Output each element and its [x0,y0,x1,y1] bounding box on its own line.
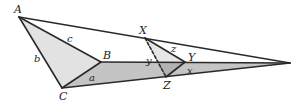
side-label-x: x [187,65,193,76]
vertex-label-a: A [13,3,22,16]
side-label-y: y [145,55,152,66]
side-label-z: z [170,43,177,54]
side-label-c: c [67,33,73,44]
side-label-a: a [89,72,95,83]
vertex-label-c: C [59,90,68,103]
vertex-label-x: X [138,24,148,37]
line-b-tip [101,62,290,63]
triangle-diagram: A B C X Y Z a b c x y z [0,0,304,107]
vertex-label-z: Z [162,79,171,92]
vertex-label-b: B [102,49,111,62]
side-label-b: b [34,53,40,64]
